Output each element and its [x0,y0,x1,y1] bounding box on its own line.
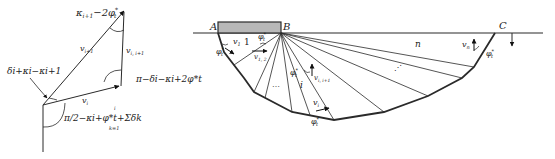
point-label-C: C [499,20,507,31]
label-block-n: n [415,39,421,49]
angle-arc-phi-B [260,43,266,44]
label-v1: v1 [233,37,241,47]
footing [218,22,281,33]
angle-arc-phi-1 [222,44,228,45]
label-vn: vn [462,40,470,50]
label-sum-lower: k=1 [109,125,119,131]
label-phi-block1: φ*t [216,46,225,57]
label-v-i-plus-1: vi+1 [80,44,94,54]
label-block-i: i [300,80,303,90]
angle-arc-top [110,28,124,32]
label-phi-n: φ*t [486,48,495,59]
label-block-1: 1 [244,37,250,47]
label-phi-i: φ*t [290,67,299,78]
velocity-hodograph: κi+1−2φ*t vi+1 vi, i+1 δi+κi−κi+1 π−δi−κ… [7,6,202,152]
diagram-canvas: κi+1−2φ*t vi+1 vi, i+1 δi+κi−κi+1 π−δi−κ… [0,0,555,159]
label-dots-right: ⋰ [394,63,402,72]
failure-mechanism: A B C v1 1 φ*t φ*t v1, 2 … φ*t vi, i+1 i… [193,20,543,127]
angle-arc-bottom [43,103,65,127]
label-phi-vi: φ*t [311,116,320,127]
pointer-arrow-left-angle [30,78,47,98]
label-v-i: vi [82,96,89,106]
velocity-vector-vi [43,86,119,105]
radial-lines [234,33,474,120]
velocity-vector-vi1 [43,11,124,105]
label-sum-upper: i [114,105,116,111]
label-dots-left: … [272,80,280,89]
label-vii1: vi, i+1 [314,74,330,83]
label-v-i-i-plus-1: vi, i+1 [126,46,144,56]
label-top-angle: κi+1−2φ*t [75,6,118,19]
label-phi-B: φ*t [258,31,267,42]
label-right-angle: π−δi−κi+2φ*t [135,74,202,84]
velocity-arrow-vi [316,108,329,111]
label-vi: vi [313,98,320,108]
label-left-angle: δi+κi−κi+1 [7,66,61,76]
point-label-A: A [209,21,217,32]
point-label-B: B [282,21,290,32]
velocity-arrow-v1 [225,48,234,54]
angle-arc-phi-n [474,46,479,50]
label-bottom-angle: π/2−κi+φ*t+Σδk [63,113,142,123]
angle-arc-right [104,70,121,82]
label-v12: v1, 2 [254,53,267,62]
velocity-vector-vii1 [121,12,124,86]
angle-arc-left [49,98,57,100]
